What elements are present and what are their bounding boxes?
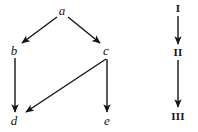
edge-a-c xyxy=(68,17,100,43)
node-label-e: e xyxy=(104,114,110,127)
node-label-a: a xyxy=(59,4,66,17)
edge-c-d xyxy=(26,59,106,112)
node-label-i: I xyxy=(176,3,181,14)
node-label-d: d xyxy=(11,114,18,127)
graph-edges-canvas xyxy=(0,0,198,132)
node-label-c: c xyxy=(103,44,109,57)
figure-root: a b c d e I II III xyxy=(0,0,198,132)
node-label-b: b xyxy=(11,44,18,57)
edge-a-b xyxy=(22,17,57,43)
node-label-iii: III xyxy=(171,111,185,122)
node-label-ii: II xyxy=(173,47,182,58)
edge-group-letter-dag xyxy=(15,17,107,112)
